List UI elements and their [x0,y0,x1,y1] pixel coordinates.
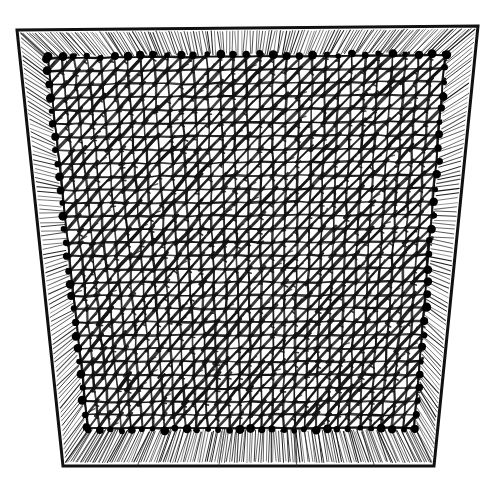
net-mesh-group [47,53,450,432]
engraving-canvas: Netting stretched on a frame [0,0,483,485]
netting-frame-illustration [0,0,483,485]
